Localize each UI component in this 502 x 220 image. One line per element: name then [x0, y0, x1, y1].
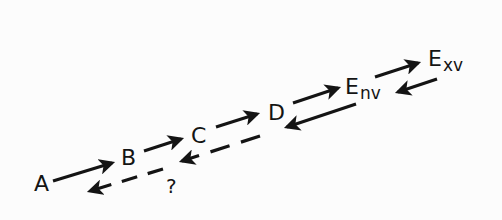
node-c: C [191, 125, 206, 147]
arrow-d-to-env [293, 88, 338, 103]
arrow-exv-to-env [398, 79, 437, 92]
node-d: D [268, 102, 285, 124]
arrow-c-to-d [216, 114, 257, 127]
reaction-diagram: A B C D Env Exv ? [0, 0, 502, 220]
node-b-label: B [121, 145, 136, 170]
node-e-nv-label: E [345, 74, 359, 99]
arrow-env-to-exv [375, 63, 418, 77]
arrow-env-to-d [287, 104, 356, 127]
node-e-xv-subscript: xv [443, 55, 463, 75]
node-a: A [34, 173, 49, 195]
arrow-b-to-a-dashed [90, 169, 163, 191]
node-d-label: D [268, 100, 285, 125]
node-a-label: A [34, 171, 49, 196]
arrows-layer [0, 0, 502, 220]
arrow-b-to-c [144, 139, 181, 151]
node-e-nv: Env [345, 76, 381, 102]
question-mark-annotation: ? [166, 176, 177, 196]
node-c-label: C [191, 123, 206, 148]
node-e-xv-label: E [428, 46, 442, 71]
node-e-nv-subscript: nv [360, 83, 381, 103]
arrow-a-to-b [53, 163, 112, 181]
node-b: B [121, 147, 136, 169]
node-e-xv: Exv [428, 48, 463, 74]
